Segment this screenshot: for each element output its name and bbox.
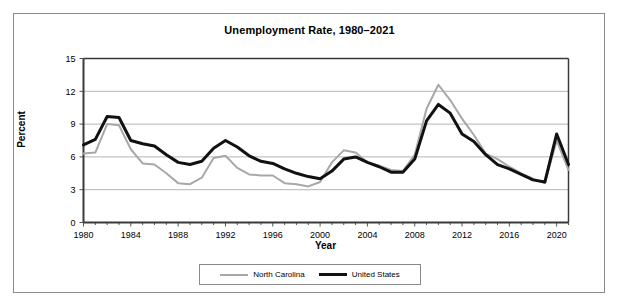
y-tick-label: 12 <box>65 87 75 97</box>
legend-swatch-united-states <box>319 273 347 276</box>
chart-page: Unemployment Rate, 1980–2021 03691215 19… <box>0 0 619 306</box>
x-axis-ticks: 1980198419881992199620002004200820122016… <box>73 223 568 240</box>
x-axis-title: Year <box>83 240 568 251</box>
chart-plot: 03691215 1980198419881992199620002004200… <box>0 0 619 306</box>
x-tick-label: 1980 <box>73 230 93 240</box>
x-tick-label: 2004 <box>357 230 377 240</box>
x-tick-label: 1984 <box>121 230 141 240</box>
x-tick-label: 1992 <box>215 230 235 240</box>
x-tick-label: 1996 <box>263 230 283 240</box>
y-axis-ticks: 03691215 <box>65 54 83 228</box>
y-tick-label: 9 <box>70 119 75 129</box>
plot-area-wrapper: 03691215 1980198419881992199620002004200… <box>0 0 619 306</box>
axis-lines <box>84 59 569 223</box>
grid-lines <box>84 59 569 190</box>
legend-item-united-states: United States <box>319 270 400 279</box>
data-series <box>84 85 569 187</box>
x-tick-label: 2000 <box>310 230 330 240</box>
y-tick-label: 6 <box>70 152 75 162</box>
y-tick-label: 3 <box>70 185 75 195</box>
x-tick-label: 1988 <box>168 230 188 240</box>
x-tick-label: 2020 <box>547 230 567 240</box>
legend-label-united-states: United States <box>352 270 400 279</box>
series-line-north-carolina <box>84 85 569 187</box>
x-tick-label: 2016 <box>499 230 519 240</box>
y-tick-label: 0 <box>70 218 75 228</box>
legend-item-north-carolina: North Carolina <box>220 270 305 279</box>
x-tick-label: 2012 <box>452 230 472 240</box>
legend-label-north-carolina: North Carolina <box>253 270 305 279</box>
legend-swatch-north-carolina <box>220 274 248 276</box>
chart-legend: North Carolina United States <box>199 264 421 285</box>
y-tick-label: 15 <box>65 54 75 64</box>
x-tick-label: 2008 <box>405 230 425 240</box>
y-axis-title: Percent <box>16 95 27 165</box>
